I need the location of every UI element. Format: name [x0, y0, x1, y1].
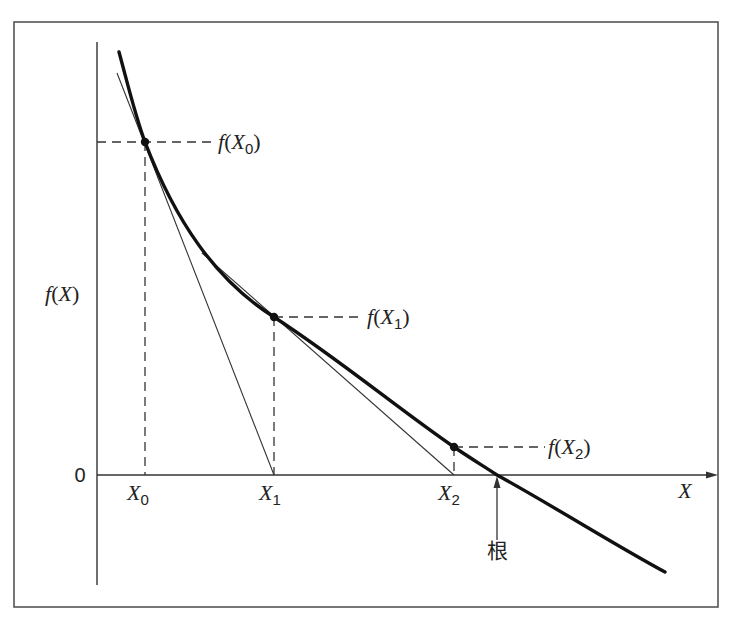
point-f-x0 [141, 138, 149, 146]
point-f-x1 [270, 313, 278, 321]
x-axis-label: X [677, 478, 693, 503]
origin-label: 0 [74, 464, 85, 486]
f-x0-label: f(X0) [218, 129, 261, 157]
root-label: 根 [487, 539, 508, 562]
f-x2-label: f(X2) [548, 434, 591, 462]
y-axis-label: f(X) [45, 281, 79, 306]
newton-method-diagram: 0 f(X) X f(X0) f(X1) f(X2) X0 X1 X2 根 [0, 0, 729, 620]
diagram-frame [14, 22, 718, 607]
point-f-x2 [450, 443, 458, 451]
f-x1-label: f(X1) [367, 304, 410, 332]
